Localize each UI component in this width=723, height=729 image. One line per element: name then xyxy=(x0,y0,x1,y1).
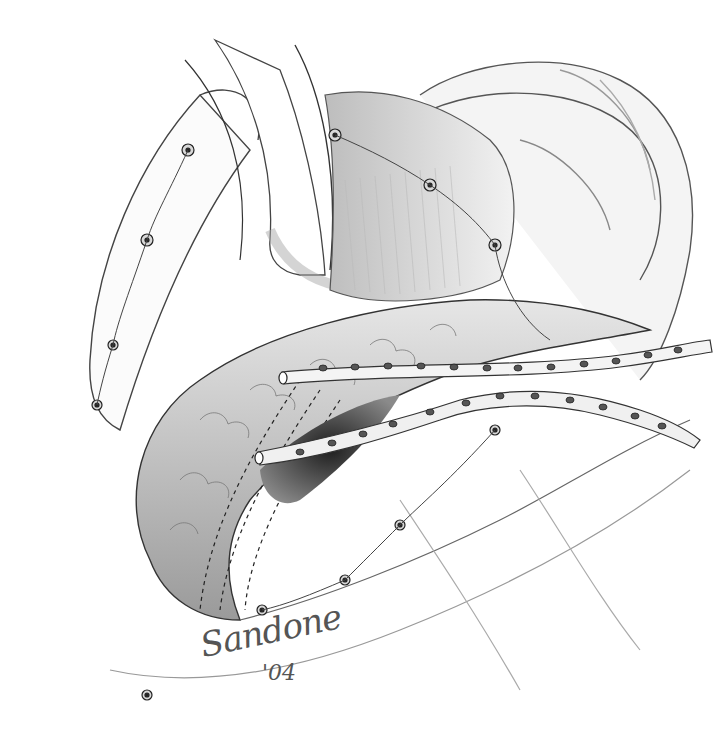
central-gland xyxy=(136,300,650,620)
signature-year: '04 xyxy=(262,660,296,685)
medical-illustration xyxy=(0,0,723,729)
